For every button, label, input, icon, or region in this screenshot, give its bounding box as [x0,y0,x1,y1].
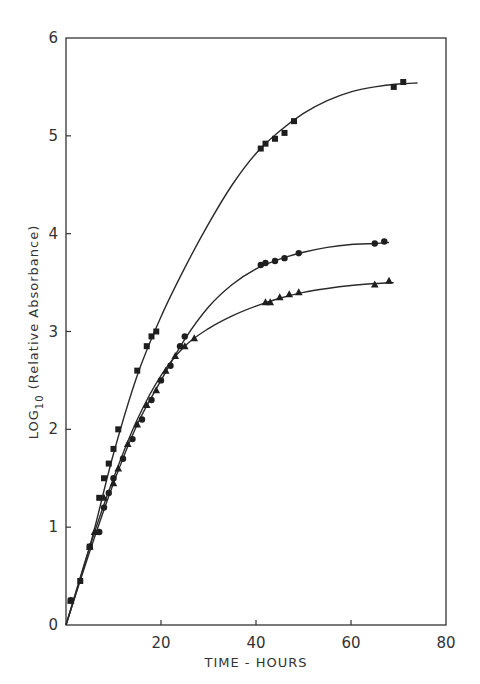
y-tick-label: 5 [48,127,58,145]
marker-square [144,343,150,349]
y-tick-label: 6 [48,29,58,47]
y-tick-label: 3 [48,323,58,341]
x-tick-label: 60 [341,634,360,652]
marker-square [391,84,397,90]
y-axis-title: LOG10 (Relative Absorbance) [26,225,45,439]
fitted-curves [66,83,418,625]
marker-triangle [385,277,393,284]
marker-square [263,141,269,147]
marker-circle [167,363,173,369]
x-tick-label: 20 [151,634,170,652]
marker-square [134,368,140,374]
x-tick-label: 80 [436,634,455,652]
marker-square [291,118,297,124]
plot-frame [66,38,446,625]
marker-square [111,446,117,452]
y-tick-label: 1 [48,518,58,536]
x-axis-title: TIME - HOURS [204,655,308,670]
marker-circle [272,258,278,264]
marker-square [115,426,121,432]
marker-circle [381,238,387,244]
marker-square [101,475,107,481]
marker-circle [148,397,154,403]
marker-circle [262,260,268,266]
marker-circle [158,377,164,383]
marker-circle [296,250,302,256]
y-tick-label: 2 [48,420,58,438]
marker-square [272,136,278,142]
marker-square [106,461,112,467]
marker-square [77,578,83,584]
marker-circle [101,504,107,510]
x-tick-label: 40 [246,634,265,652]
marker-square [282,130,288,136]
marker-triangle [110,479,118,486]
marker-square [400,79,406,85]
curve-circles [66,242,389,625]
marker-circle [120,455,126,461]
plot-axes: 012345620406080 [48,29,455,652]
marker-circle [182,333,188,339]
y-tick-label: 4 [48,225,58,243]
marker-square [153,329,159,335]
curve-squares [66,83,418,625]
marker-triangle [285,290,293,297]
marker-triangle [295,288,303,295]
chart: 012345620406080 TIME - HOURS LOG10 (Rela… [0,0,480,684]
data-markers [67,79,406,604]
marker-circle [281,255,287,261]
y-tick-label: 0 [48,616,58,634]
marker-circle [129,436,135,442]
marker-circle [139,416,145,422]
marker-circle [372,240,378,246]
curve-triangles [66,283,394,625]
marker-circle [106,490,112,496]
